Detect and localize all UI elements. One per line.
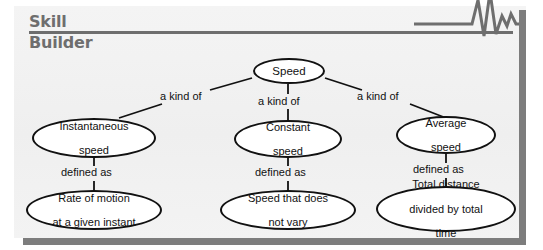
node-constant-speed-line1: Constant bbox=[260, 121, 316, 133]
content-panel: Skill Builder bbox=[14, 6, 526, 238]
connector-speed-average-upper bbox=[325, 78, 362, 90]
edge-label-defined-as-left: defined as bbox=[61, 166, 112, 178]
node-average-speed[interactable]: Averagespeed bbox=[396, 116, 496, 154]
node-constant-speed-line2: speed bbox=[260, 145, 316, 157]
concept-map: Speed a kind of a kind of a kind of Inst… bbox=[14, 6, 526, 238]
node-average-speed-line2: speed bbox=[420, 141, 473, 153]
edge-label-defined-as-middle: defined as bbox=[255, 166, 306, 178]
node-rate-of-motion-line1: Rate of motion bbox=[46, 192, 141, 204]
node-speed[interactable]: Speed bbox=[253, 58, 325, 84]
node-total-distance-line1: Total distance bbox=[403, 178, 488, 190]
node-speed-not-vary-line2: not vary bbox=[242, 216, 334, 228]
panel-right-border bbox=[519, 10, 526, 238]
node-speed-not-vary[interactable]: Speed that doesnot vary bbox=[220, 190, 356, 230]
edge-label-defined-as-right: defined as bbox=[413, 163, 464, 175]
node-constant-speed[interactable]: Constantspeed bbox=[234, 120, 342, 158]
connector-speed-instantaneous-upper bbox=[210, 78, 252, 90]
connector-speed-instantaneous-lower bbox=[119, 104, 162, 118]
node-average-speed-line1: Average bbox=[420, 117, 473, 129]
node-speed-not-vary-line1: Speed that does bbox=[242, 192, 334, 204]
node-rate-of-motion[interactable]: Rate of motionat a given instant bbox=[26, 190, 162, 230]
node-rate-of-motion-line2: at a given instant bbox=[46, 216, 141, 228]
node-instantaneous-speed[interactable]: Instantaneousspeed bbox=[32, 118, 156, 158]
skill-builder-figure: Skill Builder bbox=[0, 0, 543, 250]
panel-bottom-border bbox=[23, 238, 526, 245]
edge-label-kind-of-middle: a kind of bbox=[258, 95, 300, 107]
node-total-distance-line2: divided by total bbox=[403, 203, 488, 215]
edge-label-kind-of-left: a kind of bbox=[160, 90, 202, 102]
node-speed-label: Speed bbox=[266, 65, 311, 78]
node-total-distance[interactable]: Total distancedivided by totaltime bbox=[376, 186, 516, 232]
node-instantaneous-speed-line1: Instantaneous bbox=[53, 120, 134, 132]
node-instantaneous-speed-line2: speed bbox=[53, 144, 134, 156]
edge-label-kind-of-right: a kind of bbox=[357, 90, 399, 102]
